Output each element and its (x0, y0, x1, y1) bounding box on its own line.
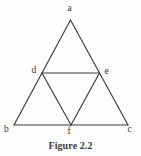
figure-caption: Figure 2.2 (0, 140, 141, 151)
vertex-label-d: d (32, 66, 37, 76)
vertex-label-e: e (105, 67, 109, 77)
figure-container: a b c d e f Figure 2.2 (0, 0, 141, 156)
vertex-label-a: a (68, 4, 72, 14)
vertex-label-b: b (4, 125, 9, 135)
vertex-label-f: f (68, 127, 71, 137)
vertex-label-c: c (128, 125, 132, 135)
